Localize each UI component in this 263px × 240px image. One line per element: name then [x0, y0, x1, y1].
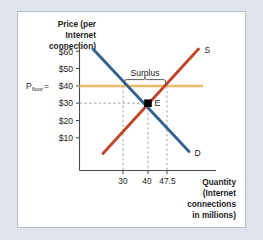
y-tick-label-50: $50	[59, 64, 74, 74]
y-axis-ticks: $10 $20 $30 $40 $50 $60	[59, 47, 80, 144]
x-axis-label-line-2: (Internet	[203, 188, 236, 198]
x-tick-label-30: 30	[118, 176, 128, 186]
y-tick-label-60: $60	[59, 47, 74, 57]
x-axis-label: Quantity (Internet connections in millio…	[187, 177, 236, 220]
y-tick-label-40: $40	[59, 81, 74, 91]
supply-demand-price-floor-chart: Price (per Internet connection) $10 $20 …	[0, 0, 263, 240]
y-axis-label-line-1: Price (per	[58, 19, 97, 29]
y-axis-label-line-2: Internet	[66, 30, 97, 40]
demand-curve	[93, 49, 189, 152]
price-floor-label-subscript: floor	[32, 86, 43, 92]
surplus-brace-icon	[125, 78, 166, 85]
y-tick-label-30: $30	[59, 98, 74, 108]
x-axis-label-line-4: in millions)	[192, 210, 236, 220]
y-tick-label-20: $20	[59, 116, 74, 126]
demand-curve-label: D	[195, 148, 201, 158]
equilibrium-point-marker	[144, 99, 152, 107]
y-tick-label-10: $10	[59, 133, 74, 143]
price-floor-axis-label: P floor =	[26, 81, 49, 92]
x-tick-label-475: 47.5	[159, 176, 176, 186]
x-axis-ticks: 30 40 47.5	[118, 171, 176, 186]
supply-curve-label: S	[205, 45, 211, 55]
x-axis-label-line-1: Quantity	[202, 177, 236, 187]
x-axis-label-line-3: connections	[187, 199, 236, 209]
figure-root: Price (per Internet connection) $10 $20 …	[0, 0, 263, 240]
x-tick-label-40: 40	[142, 176, 152, 186]
surplus-label: Surplus	[130, 68, 159, 78]
surplus-annotation: Surplus	[125, 68, 166, 85]
price-floor-label-equals: =	[44, 81, 49, 91]
equilibrium-point-label: E	[155, 98, 161, 108]
